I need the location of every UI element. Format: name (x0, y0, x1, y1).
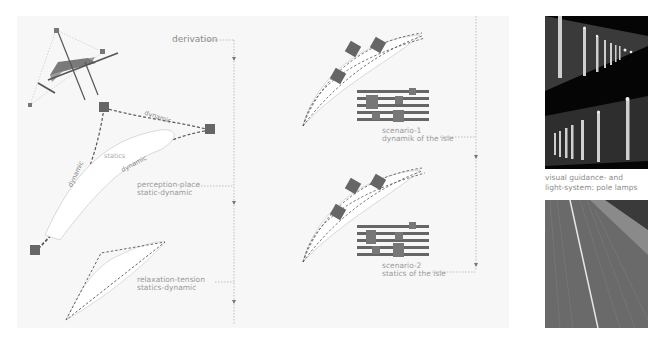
photo-caption-line2: light-system: pole lamps (545, 183, 655, 193)
scenario1-bars (357, 88, 429, 122)
relaxation-line2: statics-dynamic (137, 283, 196, 292)
photo-caption: visual guidance- and light-system: pole … (545, 173, 655, 193)
perception-triangle (30, 102, 215, 255)
scenario2-line2: statics of the isle (382, 269, 446, 278)
isle-sketch (28, 28, 118, 107)
photo-promenade (545, 200, 648, 328)
derivation-axis (195, 16, 476, 325)
triangle-inner-label: statics (104, 152, 125, 160)
scenario1-line2: dynamik of the isle (382, 134, 454, 143)
derivation-label: derivation (172, 35, 218, 44)
perception-line2: static-dynamic (137, 188, 192, 197)
photo-caption-line1: visual guidance- and (545, 173, 655, 183)
photo-pole-lamps-night (545, 16, 648, 169)
scenario2-bars (357, 222, 429, 257)
